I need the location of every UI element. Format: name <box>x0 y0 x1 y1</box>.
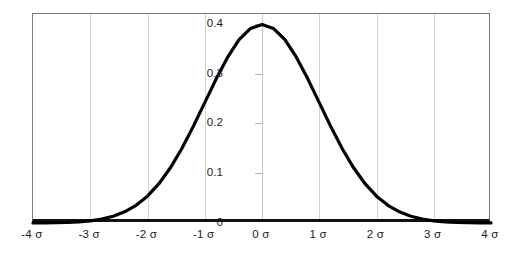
curve-path <box>33 25 491 223</box>
gaussian-curve-figure: 00.10.20.30.4 -4 σ-3 σ-2 σ-1 σ0 σ1 σ2 σ3… <box>0 0 519 253</box>
x-axis-label--4-sigma: -4 σ <box>21 228 42 240</box>
x-axis-label-0-sigma: 0 σ <box>252 228 269 240</box>
x-axis-labels: -4 σ-3 σ-2 σ-1 σ0 σ1 σ2 σ3 σ4 σ <box>32 228 490 250</box>
normal-distribution-curve <box>33 14 491 223</box>
plot-area <box>32 13 490 222</box>
x-axis-label-1-sigma: 1 σ <box>310 228 327 240</box>
x-axis-label-2-sigma: 2 σ <box>367 228 384 240</box>
x-axis-label--2-sigma: -2 σ <box>136 228 157 240</box>
x-axis-label-3-sigma: 3 σ <box>424 228 441 240</box>
x-axis-label-4-sigma: 4 σ <box>481 228 498 240</box>
x-axis-label--1-sigma: -1 σ <box>193 228 214 240</box>
x-axis-label--3-sigma: -3 σ <box>79 228 100 240</box>
